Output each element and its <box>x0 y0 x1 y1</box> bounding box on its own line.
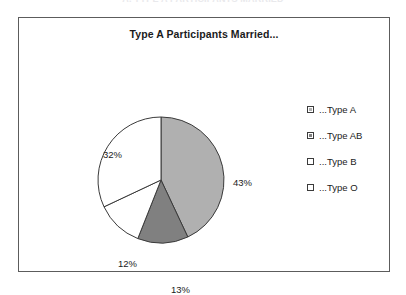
pie-slice-group <box>98 117 224 243</box>
legend-swatch-type-o <box>307 184 314 191</box>
chart-frame: Type A Participants Married... 43% 13% 1… <box>18 17 390 272</box>
pie-data-label-type-ab: 13% <box>171 284 190 295</box>
pie-data-label-type-b: 12% <box>118 258 137 269</box>
clipped-figure-caption: A. TYPE A PARTICIPANTS MARRIED <box>0 0 406 2</box>
legend-swatch-type-ab <box>307 132 314 139</box>
legend-label-type-a: ...Type A <box>319 104 356 115</box>
pie-data-label-type-o: 32% <box>103 149 122 160</box>
legend-item-type-b: ...Type B <box>307 154 403 168</box>
pie-data-label-type-a: 43% <box>233 177 252 188</box>
legend-swatch-type-b <box>307 158 314 165</box>
pie-plot-area: 43% 13% 12% 32% <box>19 48 289 263</box>
legend-item-type-a: ...Type A <box>307 102 403 116</box>
chart-legend: ...Type A ...Type AB ...Type B ...Type O <box>307 102 403 206</box>
chart-title: Type A Participants Married... <box>19 28 389 40</box>
pie-chart-svg <box>19 48 289 263</box>
legend-label-type-ab: ...Type AB <box>319 130 362 141</box>
legend-item-type-o: ...Type O <box>307 180 403 194</box>
legend-label-type-o: ...Type O <box>319 182 358 193</box>
legend-item-type-ab: ...Type AB <box>307 128 403 142</box>
legend-swatch-type-a <box>307 106 314 113</box>
legend-label-type-b: ...Type B <box>319 156 357 167</box>
